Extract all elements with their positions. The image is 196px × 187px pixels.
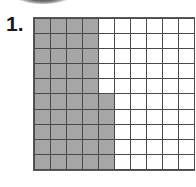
grid-cell bbox=[146, 109, 163, 125]
grid-cell bbox=[178, 18, 195, 34]
grid-cell bbox=[162, 63, 179, 79]
grid-cell bbox=[130, 63, 147, 79]
grid-cell-shaded bbox=[66, 33, 83, 49]
grid-cell-shaded bbox=[50, 93, 67, 109]
grid-cell bbox=[178, 109, 195, 125]
grid-cell bbox=[130, 154, 147, 170]
grid-cell bbox=[162, 48, 179, 64]
grid-cell bbox=[178, 63, 195, 79]
grid-cell bbox=[98, 18, 115, 34]
grid-cell-shaded bbox=[66, 109, 83, 125]
grid-cell-shaded bbox=[82, 33, 99, 49]
grid-cell-shaded bbox=[34, 154, 51, 170]
grid-cell bbox=[146, 139, 163, 155]
grid-cell bbox=[98, 78, 115, 94]
grid-cell-shaded bbox=[50, 139, 67, 155]
grid-cell bbox=[162, 124, 179, 140]
grid-cell-shaded bbox=[34, 48, 51, 64]
grid-cell bbox=[146, 18, 163, 34]
grid-cell bbox=[146, 48, 163, 64]
grid-cell bbox=[162, 154, 179, 170]
grid-cell bbox=[98, 48, 115, 64]
grid-cell-shaded bbox=[82, 48, 99, 64]
grid-cell bbox=[178, 139, 195, 155]
problem-number: 1. bbox=[6, 12, 24, 36]
grid-cell-shaded bbox=[66, 154, 83, 170]
grid-cell bbox=[178, 154, 195, 170]
grid-cell-shaded bbox=[82, 154, 99, 170]
grid-cell-shaded bbox=[34, 33, 51, 49]
grid-cell-shaded bbox=[34, 63, 51, 79]
grid-cell bbox=[146, 154, 163, 170]
grid-cell bbox=[162, 109, 179, 125]
grid-cell-shaded bbox=[66, 139, 83, 155]
grid-cell bbox=[98, 33, 115, 49]
grid-cell-shaded bbox=[66, 48, 83, 64]
grid-cell-shaded bbox=[50, 124, 67, 140]
grid-cell-shaded bbox=[66, 63, 83, 79]
grid-cell-shaded bbox=[82, 63, 99, 79]
grid-cell-shaded bbox=[98, 93, 115, 109]
grid-cell-shaded bbox=[66, 78, 83, 94]
grid-cell bbox=[146, 33, 163, 49]
grid-cell bbox=[162, 139, 179, 155]
grid-cell bbox=[130, 139, 147, 155]
grid-cell bbox=[114, 124, 131, 140]
grid-cell-shaded bbox=[50, 109, 67, 125]
grid-cell-shaded bbox=[34, 78, 51, 94]
grid-cell-shaded bbox=[34, 18, 51, 34]
grid-cell-shaded bbox=[50, 48, 67, 64]
grid-cell-shaded bbox=[34, 124, 51, 140]
grid-cell bbox=[130, 33, 147, 49]
grid-cell-shaded bbox=[82, 18, 99, 34]
grid-cell-shaded bbox=[82, 93, 99, 109]
grid-cell-shaded bbox=[34, 139, 51, 155]
grid-cell bbox=[114, 109, 131, 125]
grid-cell bbox=[178, 78, 195, 94]
grid-cell bbox=[130, 78, 147, 94]
grid-cell-shaded bbox=[98, 124, 115, 140]
grid-cell-shaded bbox=[50, 78, 67, 94]
grid-cell-shaded bbox=[50, 154, 67, 170]
grid-cell-shaded bbox=[50, 18, 67, 34]
grid-cell-shaded bbox=[82, 78, 99, 94]
grid-cell bbox=[130, 109, 147, 125]
grid-cell-shaded bbox=[98, 109, 115, 125]
grid-cell bbox=[178, 33, 195, 49]
grid-cell-shaded bbox=[34, 93, 51, 109]
grid-cell-shaded bbox=[66, 18, 83, 34]
grid-cell-shaded bbox=[98, 154, 115, 170]
grid-cell bbox=[130, 48, 147, 64]
hundred-grid bbox=[33, 17, 195, 171]
grid-cell bbox=[162, 78, 179, 94]
grid-cell-shaded bbox=[82, 124, 99, 140]
grid-cell-shaded bbox=[82, 139, 99, 155]
grid-cell bbox=[162, 93, 179, 109]
grid-cell bbox=[130, 93, 147, 109]
grid-cell-shaded bbox=[50, 63, 67, 79]
grid-cell bbox=[114, 93, 131, 109]
grid-cell bbox=[114, 154, 131, 170]
grid-cell-shaded bbox=[34, 109, 51, 125]
grid-cell bbox=[98, 63, 115, 79]
grid-cell-shaded bbox=[66, 124, 83, 140]
grid-cell-shaded bbox=[82, 109, 99, 125]
grid-cell-shaded bbox=[50, 33, 67, 49]
grid-cell bbox=[146, 63, 163, 79]
grid-cell bbox=[114, 48, 131, 64]
grid-cell bbox=[114, 139, 131, 155]
grid-cell bbox=[178, 48, 195, 64]
grid-cell bbox=[130, 18, 147, 34]
grid-cell bbox=[114, 33, 131, 49]
grid-cell-shaded bbox=[66, 93, 83, 109]
grid-cell bbox=[130, 124, 147, 140]
grid-cell bbox=[146, 124, 163, 140]
grid-cell-shaded bbox=[98, 139, 115, 155]
grid-cell bbox=[114, 78, 131, 94]
grid-cell bbox=[162, 18, 179, 34]
grid-cell bbox=[178, 124, 195, 140]
grid-cell bbox=[162, 33, 179, 49]
decorative-arc bbox=[14, 0, 72, 4]
grid-cell bbox=[178, 93, 195, 109]
grid-cell bbox=[114, 18, 131, 34]
